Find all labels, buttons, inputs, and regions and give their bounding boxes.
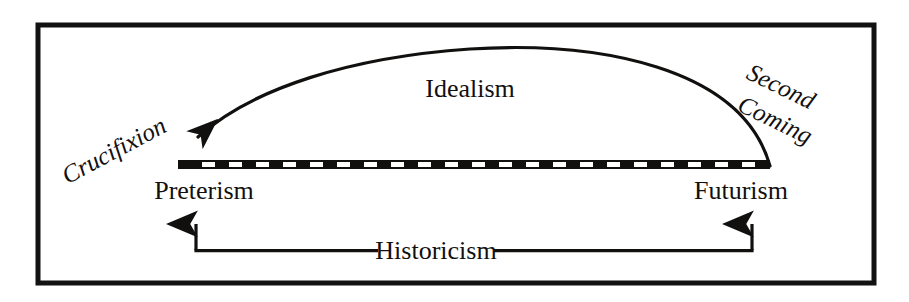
label-futurism: Futurism <box>694 176 788 205</box>
diagram-canvas: Idealism Crucifixion Second Coming Prete… <box>0 0 909 302</box>
timeline-bar <box>178 160 770 169</box>
label-historicism: Historicism <box>375 236 496 265</box>
idealism-arc <box>198 48 770 166</box>
label-preterism: Preterism <box>154 176 254 205</box>
label-idealism: Idealism <box>425 74 515 103</box>
diagram-figure: Idealism Crucifixion Second Coming Prete… <box>0 0 909 302</box>
